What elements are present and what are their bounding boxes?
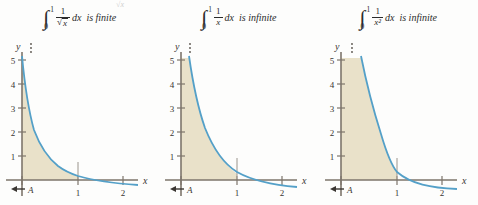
shaded-area-region <box>181 58 237 180</box>
fraction-numerator: 1 <box>56 7 70 16</box>
a-marker-label: A <box>27 185 34 195</box>
fraction-denominator: x <box>214 18 223 27</box>
y-tick-label-1: 1 <box>11 152 16 162</box>
differential-dx: dx <box>385 12 394 23</box>
plot-svg-inverse: 1 2 3 4 5 1 2 A y <box>159 38 318 205</box>
y-axis-label: y <box>174 41 180 52</box>
panel-inverse-square: ∫10 1x²dxis infinite 1 2 3 4 5 <box>319 0 478 205</box>
y-tick-label-1: 1 <box>329 152 334 162</box>
integral-upper-limit: 1 <box>208 6 212 14</box>
y-axis-continuation-dots-icon <box>351 43 353 53</box>
verdict-text: is infinite <box>399 12 437 23</box>
differential-dx: dx <box>225 12 234 23</box>
x-tick-label-1: 1 <box>235 188 240 198</box>
plot-inverse: 1 2 3 4 5 1 2 A y <box>159 38 318 205</box>
y-tick-label-4: 4 <box>11 80 16 90</box>
y-tick-label-3: 3 <box>170 104 175 114</box>
plot-inverse-square: 1 2 3 4 5 1 2 A y <box>319 38 478 205</box>
y-axis-label: y <box>334 41 340 52</box>
fraction-numerator: 1 <box>214 7 223 16</box>
y-tick-label-2: 2 <box>170 128 175 138</box>
plot-svg-inverse-square: 1 2 3 4 5 1 2 A y <box>319 38 478 205</box>
y-tick-label-5: 5 <box>329 56 334 66</box>
integral-upper-limit: 1 <box>367 6 371 14</box>
formula-sqrt: ∫10 1√xdxis finite <box>0 8 159 30</box>
x-tick-label-2: 2 <box>439 188 444 198</box>
verdict-text: is infinite <box>239 12 277 23</box>
fraction-one-over-x-squared: 1x² <box>372 7 383 28</box>
formula-inverse: ∫10 1xdxis infinite <box>159 8 318 29</box>
plot-svg-sqrt: 1 2 3 4 5 1 2 <box>0 38 159 205</box>
y-tick-label-2: 2 <box>11 128 16 138</box>
x-axis-label: x <box>142 175 148 186</box>
y-axis-label: y <box>15 41 21 52</box>
plot-sqrt: 1 2 3 4 5 1 2 <box>0 38 159 205</box>
x-axis-label: x <box>461 175 467 186</box>
y-axis-continuation-dots-icon <box>189 43 191 53</box>
panel-inverse: ∫10 1xdxis infinite 1 2 3 4 5 <box>159 0 318 205</box>
y-tick-label-3: 3 <box>11 104 16 114</box>
x-tick-label-1: 1 <box>394 188 399 198</box>
y-tick-label-2: 2 <box>329 128 334 138</box>
integral-lower-limit: 0 <box>361 23 365 31</box>
integral-lower-limit: 0 <box>202 23 206 31</box>
y-tick-label-1: 1 <box>170 152 175 162</box>
integral-sign: ∫10 <box>360 8 366 29</box>
fraction-denominator: √x <box>56 18 70 28</box>
fraction-denominator: x² <box>372 18 383 27</box>
y-tick-label-4: 4 <box>170 80 175 90</box>
fraction-numerator: 1 <box>372 7 383 16</box>
x-tick-label-2: 2 <box>121 188 126 198</box>
integral-sign: ∫10 <box>43 8 49 29</box>
integral-lower-limit: 0 <box>44 23 48 31</box>
fraction-one-over-x: 1x <box>214 7 223 28</box>
x-axis-label: x <box>301 175 307 186</box>
integral-comparison-figure: √x ∫10 1√xdxis finite <box>0 0 478 205</box>
shaded-area-region <box>341 58 397 180</box>
x-tick-label-1: 1 <box>76 188 81 198</box>
a-marker-label: A <box>186 185 193 195</box>
differential-dx: dx <box>72 12 81 23</box>
square-root-icon: √x <box>58 18 68 28</box>
fraction-one-over-sqrt-x: 1√x <box>56 7 70 29</box>
verdict-text: is finite <box>86 12 116 23</box>
integral-sign: ∫10 <box>201 8 207 29</box>
y-tick-label-5: 5 <box>170 56 175 66</box>
formula-inverse-square: ∫10 1x²dxis infinite <box>319 8 478 29</box>
x-tick-label-2: 2 <box>280 188 285 198</box>
y-tick-label-5: 5 <box>11 56 16 66</box>
y-tick-label-3: 3 <box>329 104 334 114</box>
panel-sqrt: √x ∫10 1√xdxis finite <box>0 0 159 205</box>
y-axis-continuation-dots-icon <box>30 43 32 53</box>
y-tick-label-4: 4 <box>329 80 334 90</box>
a-marker-label: A <box>346 185 353 195</box>
integral-upper-limit: 1 <box>50 6 54 14</box>
